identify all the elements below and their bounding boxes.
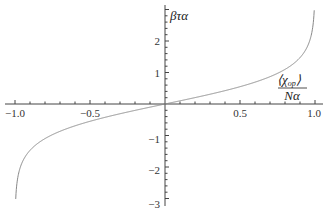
y-tick-label: 1 — [155, 67, 161, 79]
x-tick-label: 1.0 — [307, 107, 321, 119]
x-tick-label: −1.0 — [5, 107, 25, 119]
x-axis: −1.0 −0.5 0.5 1.0 — [5, 100, 323, 119]
x-tick-label: −0.5 — [80, 107, 100, 119]
svg-text:⟨χop⟩: ⟨χop⟩ — [277, 72, 301, 88]
svg-text:Nα: Nα — [283, 88, 301, 103]
y-axis-label: βτα — [169, 8, 189, 23]
x-axis-label: ⟨χop⟩ Nα — [277, 72, 307, 103]
y-tick-label: −3 — [148, 198, 160, 210]
y-tick-label: 2 — [155, 35, 161, 47]
y-tick-label: −1 — [148, 133, 160, 145]
chart: −1.0 −0.5 0.5 1.0 2 1 −1 −2 −3 βτα ⟨χop⟩… — [0, 0, 328, 215]
x-tick-label: 0.5 — [233, 107, 247, 119]
y-axis: 2 1 −1 −2 −3 — [148, 5, 169, 210]
y-tick-label: −2 — [148, 164, 160, 176]
